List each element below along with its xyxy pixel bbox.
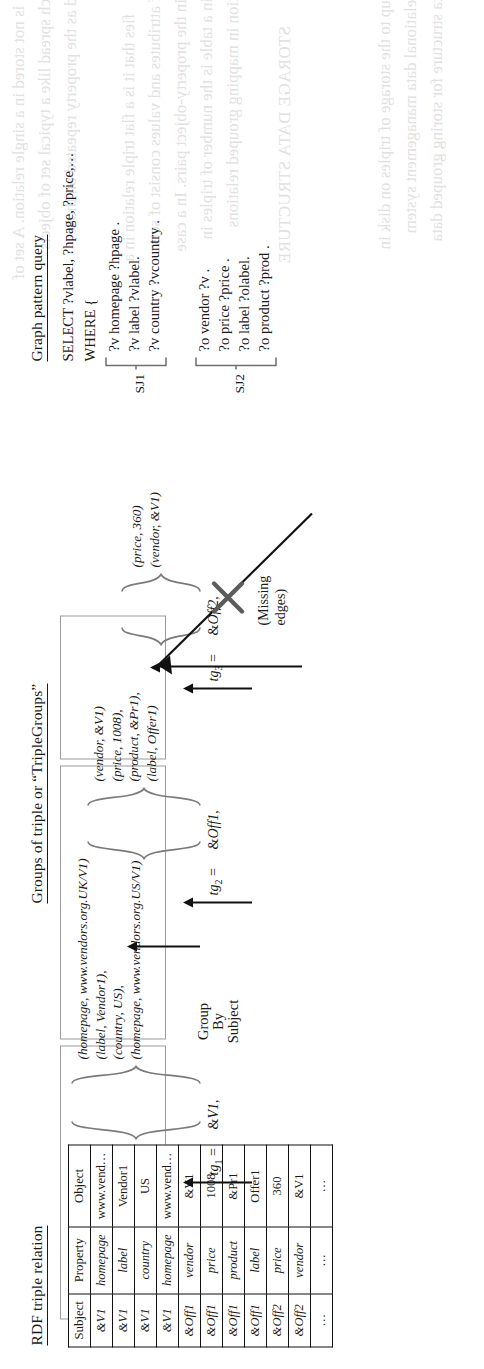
cell-subject-7: &Off1: [245, 1293, 267, 1346]
cell-subject-10: …: [311, 1293, 333, 1346]
tg2-inner-brace: [86, 785, 202, 807]
tg1-inner-brace: [70, 1063, 202, 1085]
triple-groups-title: Groups of triple or “TripleGroups”: [28, 683, 48, 903]
cell-object-7: Offer1: [245, 1145, 267, 1227]
table-row: &V1countryUS: [135, 1145, 157, 1347]
cell-subject-6: &Off1: [223, 1293, 245, 1346]
cell-property-8: price: [267, 1226, 289, 1293]
page-bleedthrough: ons in a table is the number of triples …: [194, 0, 220, 239]
tg2-triple-2: (product, &Pr1),: [125, 692, 143, 781]
page-bleedthrough: STORAGE DATA STRUCTURE: [272, 25, 298, 263]
sj2-pattern-1: ?o price ?price .: [214, 245, 234, 351]
rdf-table-title: RDF triple relation: [28, 1225, 48, 1345]
cell-property-10: …: [311, 1226, 333, 1293]
cell-property-2: country: [135, 1226, 157, 1293]
table-row: &V1labelVendor1: [113, 1145, 135, 1347]
group-by-line3: Subject: [226, 961, 241, 1081]
cell-object-10: …: [311, 1145, 333, 1227]
query-select-line: SELECT ?vlabel, ?hpage, ?price,…: [58, 152, 78, 361]
missing-edges-annotation: (Missing edges): [256, 575, 289, 625]
arrow-tg1-head: [183, 1177, 193, 1187]
tg2-triple-3: (label, Offer1): [143, 692, 161, 781]
tg1-index: 1: [213, 1159, 224, 1164]
cell-object-2: US: [135, 1145, 157, 1227]
cell-subject-5: &Off1: [201, 1293, 223, 1346]
cell-subject-9: &Off2: [289, 1293, 311, 1346]
page-bleedthrough: up to the storage of triples on disk in: [372, 0, 398, 249]
page-bleedthrough: the relational data management system: [398, 0, 424, 233]
arrow-tg1-shaft: [192, 1181, 252, 1183]
arrow-tg3-head: [183, 683, 193, 693]
tg1-triple-1: (label, Vendor1),: [92, 858, 110, 1059]
tg2-equals: =: [206, 868, 221, 876]
cell-property-6: product: [223, 1226, 245, 1293]
tg2-triples: (vendor, &V1) (price, 1008), (product, &…: [90, 692, 160, 781]
tg1-key: &&V1,V1,: [206, 1099, 222, 1129]
arrow-tg2-shaft: [192, 901, 252, 903]
cell-subject-4: &Off1: [179, 1293, 201, 1346]
tg1-triple-3: (homepage, www.vendors.org.US/V1): [127, 858, 145, 1059]
table-row: ………: [311, 1145, 333, 1347]
page-bleedthrough: relation in mapping grouped relations: [220, 0, 246, 227]
cell-subject-2: &V1: [135, 1293, 157, 1346]
sj1-pattern-0: ?v homepage ?hpage .: [104, 220, 124, 351]
tg1-name: tg: [206, 1164, 221, 1175]
sj1-bracket: [104, 355, 170, 369]
query-where-line: WHERE {: [80, 298, 100, 361]
tg1-outer-brace: [70, 1119, 202, 1141]
tg1-triple-2: (country, US),: [109, 858, 127, 1059]
table-row: &Off1product&Pr1: [223, 1145, 245, 1347]
sj2-pattern-2: ?o label ?olabel.: [234, 245, 254, 351]
tg1-equals: =: [206, 1148, 221, 1156]
sj1-pattern-1: ?v label ?vlabel.: [124, 220, 144, 351]
table-header-row: Subject Property Object: [69, 1145, 91, 1347]
sj2-bracket: [194, 355, 280, 369]
tg2-label: tg2 =: [206, 868, 224, 895]
sj1-patterns: ?v homepage ?hpage . ?v label ?vlabel. ?…: [104, 220, 164, 351]
table-row: &V1homepagewww.vend…: [157, 1145, 179, 1347]
cell-property-5: price: [201, 1226, 223, 1293]
tg1-label: tg1 =: [206, 1148, 224, 1175]
cell-object-0: www.vend…: [91, 1145, 113, 1227]
tg2-outer-brace: [86, 839, 202, 861]
cell-property-1: label: [113, 1226, 135, 1293]
table-row: &Off1vendor&V1: [179, 1145, 201, 1347]
page-bleedthrough: set of attributes and values consist of …: [142, 0, 168, 245]
figure-canvas: is not stored in a single relation. A se…: [0, 0, 484, 1369]
cell-subject-3: &V1: [157, 1293, 179, 1346]
page-bleedthrough: ts in the property-object pairs. In a ca…: [168, 0, 194, 251]
sj1-label: SJ1: [132, 373, 148, 393]
table-row: &Off1labelOffer1: [245, 1145, 267, 1347]
col-object: Object: [69, 1145, 91, 1227]
sj1-pattern-2: ?v country ?vcountry .: [144, 220, 164, 351]
tg3-triple-0: (price, 360): [128, 492, 146, 567]
tg2-index: 2: [213, 879, 224, 884]
cell-object-8: 360: [267, 1145, 289, 1227]
cell-subject-8: &Off2: [267, 1293, 289, 1346]
cell-object-9: &V1: [289, 1145, 311, 1227]
arrow-sj1-shaft: [136, 945, 200, 947]
missing-edges-line-1: (Missing: [256, 575, 273, 625]
sj2-pattern-3: ?o product ?prod .: [254, 245, 274, 351]
query-title: Graph pattern query: [28, 234, 48, 361]
cell-object-1: Vendor1: [113, 1145, 135, 1227]
tg1-triple-0: (homepage, www.vendors.org.UK/V1): [74, 858, 92, 1059]
page-bleedthrough: a data structure for storing grouped dat…: [424, 0, 450, 241]
cell-property-3: homepage: [157, 1226, 179, 1293]
cell-object-3: www.vend…: [157, 1145, 179, 1227]
tg2-triple-0: (vendor, &V1): [90, 692, 108, 781]
cell-subject-0: &V1: [91, 1293, 113, 1346]
tg2-triple-1: (price, 1008),: [108, 692, 126, 781]
table-row: &Off2vendor&V1: [289, 1145, 311, 1347]
cell-property-9: vendor: [289, 1226, 311, 1293]
sj2-patterns: ?o vendor ?v . ?o price ?price . ?o labe…: [194, 245, 274, 351]
missing-edges-line-2: edges): [273, 575, 290, 625]
arrow-sj1-head: [127, 941, 137, 951]
tg2-name: tg: [206, 884, 221, 895]
rdf-triple-table: Subject Property Object &V1homepagewww.v…: [68, 1144, 333, 1347]
tg1-triples: (homepage, www.vendors.org.UK/V1) (label…: [74, 858, 144, 1059]
arrow-tg2-head: [183, 897, 193, 907]
table-row: &V1homepagewww.vend…: [91, 1145, 113, 1347]
tg2-key: &Off1,: [206, 810, 222, 849]
table-row: &Off2price360: [267, 1145, 289, 1347]
